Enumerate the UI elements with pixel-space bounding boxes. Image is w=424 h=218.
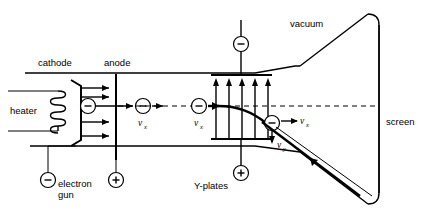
y-plates-label: Y-plates: [194, 180, 228, 191]
anode-label: anode: [104, 57, 130, 68]
vx-after-plates-label: v x: [300, 116, 309, 128]
anode-terminal: [109, 160, 124, 188]
vx-after-anode-label: v x: [138, 118, 147, 130]
vx-subscript: x: [143, 123, 147, 130]
vy-subscript: y: [282, 145, 286, 152]
vx-symbol-2: v: [194, 118, 199, 128]
vx-symbol-3: v: [300, 116, 305, 126]
vx-subscript-3: x: [305, 121, 309, 128]
y-plate-top-terminal: [234, 20, 249, 52]
vx-symbol: v: [138, 118, 143, 128]
vx-subscript-2: x: [199, 123, 203, 130]
vy-symbol: v: [277, 140, 282, 150]
vx-after-plates-arrow: [281, 118, 298, 124]
cathode-label: cathode: [38, 57, 72, 68]
screen-label: screen: [386, 116, 415, 127]
vx-before-plates-label: v x: [194, 118, 203, 130]
vy-deflection-arrow: [269, 131, 275, 144]
electron-in-cathode: [81, 99, 96, 114]
cathode-electrode: [71, 80, 81, 146]
heater-label: heater: [10, 105, 37, 116]
beam-to-screen: [262, 122, 372, 196]
crt-diagram: heater cathode: [0, 0, 424, 218]
electron-gun-label-line2: gun: [58, 189, 74, 200]
electron-gun-label-line1: electron: [58, 178, 92, 189]
heater-coil: [51, 91, 66, 133]
y-plate-bottom-terminal: [234, 166, 249, 181]
electron-before-plates: [192, 99, 207, 114]
vacuum-label: vacuum: [290, 18, 323, 29]
